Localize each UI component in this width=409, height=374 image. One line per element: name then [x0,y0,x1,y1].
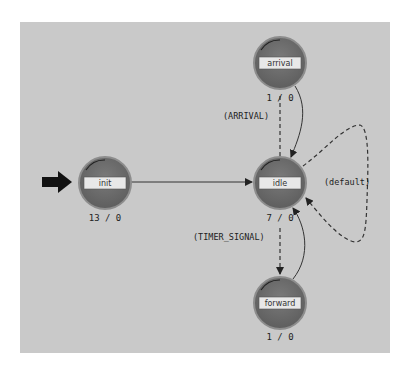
state-count-init: 13 / 0 [89,213,122,223]
transition-label-default: (default) [324,177,370,187]
state-diagram: (ARRIVAL) (TIMER_SIGNAL) (default) init … [0,0,409,374]
state-forward[interactable]: forward 1 / 0 [254,277,306,342]
initial-state-arrow-icon [42,171,72,193]
transition-label-timer-signal: (TIMER_SIGNAL) [193,232,265,242]
state-label-forward: forward [265,299,296,308]
state-label-idle: idle [273,179,288,188]
state-idle[interactable]: idle 7 / 0 [254,157,306,223]
state-count-idle: 7 / 0 [266,213,293,223]
transition-forward-idle[interactable] [293,208,305,279]
state-label-arrival: arrival [267,59,292,68]
state-count-forward: 1 / 0 [266,332,293,342]
transition-label-arrival: (ARRIVAL) [223,111,269,121]
state-init[interactable]: init 13 / 0 [79,157,131,223]
state-count-arrival: 1 / 0 [266,93,293,103]
state-label-init: init [99,179,112,188]
